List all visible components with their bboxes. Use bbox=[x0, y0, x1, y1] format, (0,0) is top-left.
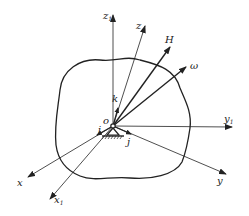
label-k: k bbox=[112, 93, 118, 104]
label-z1: z1 bbox=[102, 10, 112, 22]
label-y: y bbox=[216, 175, 223, 186]
label-omega: ω bbox=[190, 60, 198, 71]
label-H: H bbox=[164, 34, 174, 45]
label-x1: x1 bbox=[54, 194, 63, 206]
label-x: x bbox=[17, 177, 23, 188]
axis-z bbox=[113, 26, 145, 126]
label-j: j bbox=[125, 136, 130, 147]
label-z: z bbox=[135, 20, 142, 31]
label-i: i bbox=[98, 124, 101, 135]
label-origin: o bbox=[103, 115, 109, 126]
rigid-body-diagram: o z1 z H ω y1 y x x1 k i j bbox=[0, 0, 249, 216]
unit-vector-j bbox=[113, 126, 131, 134]
axes bbox=[28, 15, 232, 199]
axis-y1 bbox=[113, 126, 232, 127]
label-y1: y1 bbox=[223, 113, 233, 125]
